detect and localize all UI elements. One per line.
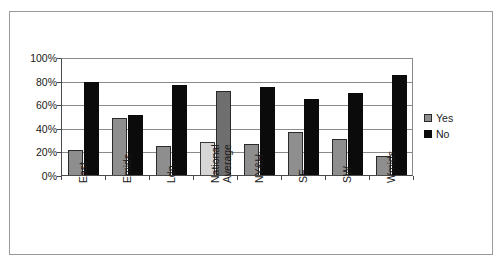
no-swatch <box>424 130 432 138</box>
bar-no-sw <box>348 93 363 176</box>
legend-item-no: No <box>424 126 453 142</box>
x-axis-label-ldn: Ldn <box>166 165 177 183</box>
x-axis-label-emids: Emids <box>122 154 133 183</box>
x-axis-label-sw: SW <box>342 166 353 183</box>
legend-label: Yes <box>436 113 453 124</box>
bar-group <box>325 58 369 176</box>
y-axis-tick-label: 40% <box>36 124 57 135</box>
x-axis-tick-mark <box>281 176 282 180</box>
y-axis-tick-label: 60% <box>36 100 57 111</box>
x-axis-label-wmids: Wmids <box>386 151 397 183</box>
x-axis-label-east: East <box>78 162 89 183</box>
bar-no-se <box>304 99 319 176</box>
x-axis-tick-mark <box>369 176 370 180</box>
x-axis-tick-mark <box>149 176 150 180</box>
y-axis-tick-label: 20% <box>36 147 57 158</box>
x-axis-label-national-average: National <box>210 144 221 183</box>
x-axis-tick-mark <box>413 176 414 180</box>
x-axis-label-national-average: Average <box>222 144 233 183</box>
yes-swatch <box>424 114 432 122</box>
y-axis-tick-label: 0% <box>42 171 57 182</box>
bar-group <box>61 58 105 176</box>
bar-no-ldn <box>172 85 187 176</box>
x-axis-label-ny-h: NY&H <box>254 154 265 183</box>
plot-area <box>61 58 413 176</box>
y-axis-tick-label: 80% <box>36 77 57 88</box>
x-axis-tick-mark <box>237 176 238 180</box>
x-axis-tick-mark <box>105 176 106 180</box>
x-axis-tick-mark <box>193 176 194 180</box>
x-axis-tick-mark <box>61 176 62 180</box>
bar-group <box>281 58 325 176</box>
y-axis-tick-label: 100% <box>30 53 57 64</box>
bar-group <box>149 58 193 176</box>
y-axis-tick-labels: 100%80%60%40%20%0% <box>12 0 57 268</box>
chart-legend: YesNo <box>424 110 453 142</box>
legend-item-yes: Yes <box>424 110 453 126</box>
x-axis-label-se: SE <box>298 169 309 183</box>
chart-figure: 100%80%60%40%20%0% EastEmidsLdnNationalA… <box>0 0 503 268</box>
x-axis-tick-mark <box>325 176 326 180</box>
legend-label: No <box>436 129 449 140</box>
